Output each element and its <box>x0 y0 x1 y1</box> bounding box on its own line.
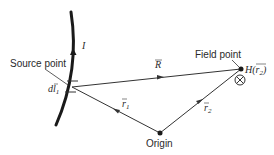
r1-arrow-icon <box>113 109 120 114</box>
origin-dot <box>158 131 163 136</box>
source-point-label: Source point <box>10 58 66 69</box>
current-arrow-icon <box>70 48 77 55</box>
into-page-icon <box>235 75 245 85</box>
R-arrow-icon <box>157 75 164 80</box>
H-field-label: H(r2) <box>244 64 267 77</box>
field-point-label: Field point <box>195 49 241 60</box>
R-label: R <box>154 59 161 70</box>
dl-label: dl1 <box>48 83 59 96</box>
r2-label: r2 <box>204 102 212 115</box>
field-point-leader <box>232 60 240 68</box>
vector-R <box>72 69 241 87</box>
current-label: I <box>81 40 86 51</box>
origin-label: Origin <box>146 138 173 149</box>
r1-label: r1 <box>122 98 129 111</box>
biot-savart-diagram: Source point Field point Origin I dl1 R … <box>0 0 274 155</box>
field-point-dot <box>239 67 244 72</box>
